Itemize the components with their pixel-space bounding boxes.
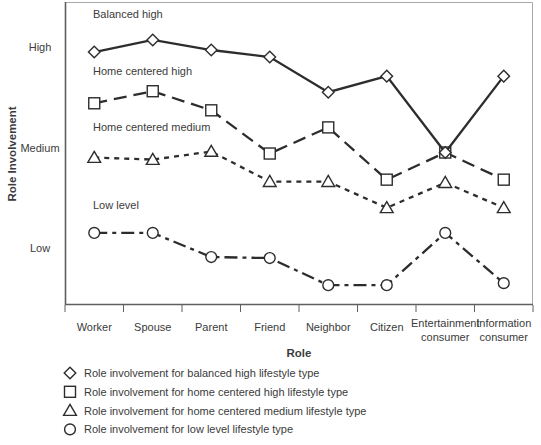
plot-box-light-edges bbox=[66, 3, 533, 305]
circle-marker bbox=[264, 253, 275, 264]
square-marker bbox=[89, 98, 100, 109]
series-annotation: Balanced high bbox=[93, 8, 163, 20]
x-tick-label: Worker bbox=[77, 321, 113, 333]
series-annotation: Home centered medium bbox=[93, 121, 210, 133]
y-axis-labels: HighMediumLow bbox=[20, 41, 59, 254]
diamond-marker bbox=[64, 367, 76, 379]
legend: Role involvement for balanced high lifes… bbox=[64, 367, 367, 435]
y-tick-label: High bbox=[29, 41, 52, 53]
triangle-marker bbox=[205, 145, 218, 156]
square-marker bbox=[323, 122, 334, 133]
x-axis-title: Role bbox=[287, 347, 312, 359]
triangle-marker bbox=[322, 175, 335, 186]
square-marker bbox=[65, 386, 76, 397]
circle-marker bbox=[206, 252, 217, 263]
circle-marker bbox=[323, 280, 334, 291]
circle-marker bbox=[89, 228, 100, 239]
circle-marker bbox=[147, 228, 158, 239]
series-annotation: Home centered high bbox=[93, 65, 192, 77]
diamond-marker bbox=[264, 51, 276, 63]
x-tick-label: Entertainmentconsumer bbox=[411, 317, 479, 343]
y-axis-title: Role Involvement bbox=[6, 106, 18, 201]
role-involvement-chart: WorkerSpouseParentFriendNeighborCitizenE… bbox=[0, 0, 541, 445]
legend-label: Role involvement for low level lifestyle… bbox=[84, 423, 293, 435]
square-marker bbox=[381, 174, 392, 185]
x-tick-label: Neighbor bbox=[306, 321, 351, 333]
x-axis-labels: WorkerSpouseParentFriendNeighborCitizenE… bbox=[77, 317, 532, 343]
y-tick-label: Medium bbox=[20, 142, 59, 154]
triangle-marker bbox=[439, 176, 452, 187]
series-line-low-level bbox=[94, 233, 504, 285]
square-marker bbox=[206, 105, 217, 116]
circle-marker bbox=[381, 280, 392, 291]
y-tick-label: Low bbox=[30, 242, 50, 254]
triangle-marker bbox=[497, 202, 510, 213]
x-axis-ticks bbox=[65, 305, 533, 312]
square-marker bbox=[147, 86, 158, 97]
legend-label: Role involvement for balanced high lifes… bbox=[84, 367, 319, 379]
circle-marker bbox=[65, 424, 76, 435]
legend-label: Role involvement for home centered mediu… bbox=[84, 405, 366, 417]
diamond-marker bbox=[205, 44, 217, 56]
x-tick-label: Spouse bbox=[134, 321, 171, 333]
x-tick-label: Parent bbox=[195, 321, 227, 333]
circle-marker bbox=[498, 278, 509, 289]
x-tick-label: Friend bbox=[254, 321, 285, 333]
diamond-marker bbox=[322, 86, 334, 98]
triangle-marker bbox=[263, 175, 276, 186]
triangle-marker bbox=[64, 404, 77, 415]
axis-lines bbox=[66, 2, 534, 305]
x-tick-label: Citizen bbox=[370, 321, 404, 333]
square-marker bbox=[498, 174, 509, 185]
circle-marker bbox=[440, 228, 451, 239]
diamond-marker bbox=[88, 46, 100, 58]
series-annotation: Low level bbox=[93, 199, 139, 211]
series-line-home-centered-high bbox=[94, 91, 504, 179]
square-marker bbox=[264, 148, 275, 159]
diamond-marker bbox=[147, 34, 159, 46]
legend-label: Role involvement for home centered high … bbox=[84, 386, 348, 398]
figure: WorkerSpouseParentFriendNeighborCitizenE… bbox=[0, 0, 541, 445]
x-tick-label: Informationconsumer bbox=[476, 317, 531, 343]
